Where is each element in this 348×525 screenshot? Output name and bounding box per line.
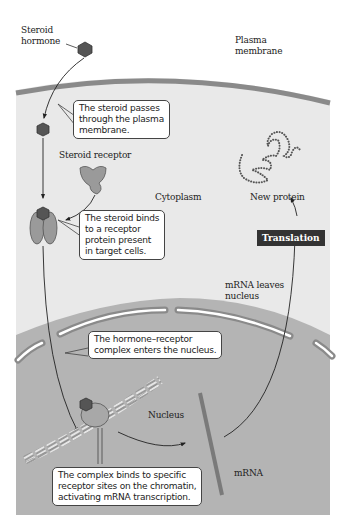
callout-step-3: The hormone–receptor complex enters the … bbox=[88, 331, 222, 359]
steroid-hormone-icon bbox=[78, 42, 92, 57]
label-plasma-membrane: Plasma membrane bbox=[235, 35, 282, 57]
label-steroid-hormone: Steroid hormone bbox=[21, 25, 60, 47]
callout-step-4: The complex binds to specific receptor s… bbox=[52, 467, 202, 506]
steroid-hormone-inside-icon bbox=[37, 123, 49, 136]
label-steroid-receptor: Steroid receptor bbox=[59, 150, 131, 161]
label-nucleus: Nucleus bbox=[148, 410, 184, 421]
steroid-hormone-diagram: Steroid hormone Plasma membrane Steroid … bbox=[0, 0, 348, 525]
label-new-protein: New protein bbox=[250, 192, 305, 203]
label-mrna: mRNA bbox=[234, 468, 263, 479]
diagram-canvas bbox=[0, 0, 348, 525]
callout-step-1: The steroid passes through the plasma me… bbox=[73, 100, 170, 139]
label-mrna-leaves-nucleus: mRNA leaves nucleus bbox=[225, 280, 284, 302]
callout-step-2: The steroid binds to a receptor protein … bbox=[79, 210, 165, 260]
label-cytoplasm: Cytoplasm bbox=[155, 192, 201, 203]
translation-label: Translation bbox=[257, 230, 325, 246]
